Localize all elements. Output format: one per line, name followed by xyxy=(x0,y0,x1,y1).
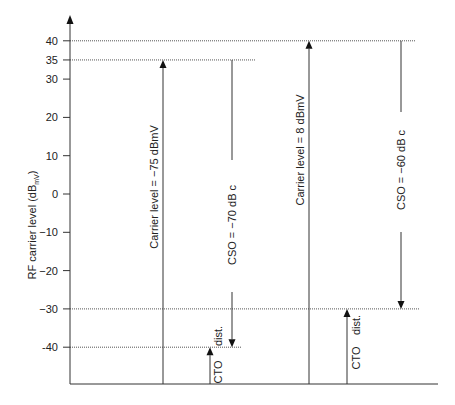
y-tick-label: -40 xyxy=(42,341,58,353)
y-tick-label: 0 xyxy=(52,188,58,200)
carrier-1-arrow-arrowhead-icon xyxy=(160,60,167,68)
carrier-2-arrow-arrowhead-icon xyxy=(306,41,313,49)
carrier-1-label: Carrier level = −75 dBmV xyxy=(148,125,160,249)
y-tick-label: 10 xyxy=(46,150,58,162)
y-tick-label: 40 xyxy=(46,35,58,47)
cto-1-arrow-arrowhead-icon xyxy=(207,347,214,355)
cto-1-dist-label: dist. xyxy=(212,326,224,346)
y-ticks: 40353020100−10−20−30-40 xyxy=(39,35,70,353)
y-tick-label: −20 xyxy=(39,265,58,277)
cto-2-dist-label: dist. xyxy=(350,315,362,335)
carrier-2-label: Carrier level = 8 dBmV xyxy=(294,94,306,206)
y-tick-label: −10 xyxy=(39,226,58,238)
reference-lines xyxy=(70,41,419,347)
cto-2-label: CTO xyxy=(350,346,362,369)
y-tick-label: 20 xyxy=(46,111,58,123)
y-axis-title-subscript: mV xyxy=(33,174,40,185)
y-tick-label: −30 xyxy=(39,303,58,315)
cto-1-label: CTO xyxy=(212,360,224,383)
y-tick-label: 35 xyxy=(46,54,58,66)
cso-cto-level-diagram: 40353020100−10−20−30-40 RF carrier level… xyxy=(0,0,455,405)
cso-2-arrow-arrowhead-icon xyxy=(398,301,405,309)
cso-2-label: CSO = −60 dB c xyxy=(395,129,407,210)
y-tick-label: 30 xyxy=(46,73,58,85)
cso-1-label: CSO = −70 dB c xyxy=(226,184,238,265)
level-arrows xyxy=(160,41,405,384)
cso-1-arrow-arrowhead-icon xyxy=(229,339,236,347)
y-axis-title: RF carrier level (dBmV) xyxy=(26,171,40,280)
y-axis-arrow-icon xyxy=(67,15,74,24)
